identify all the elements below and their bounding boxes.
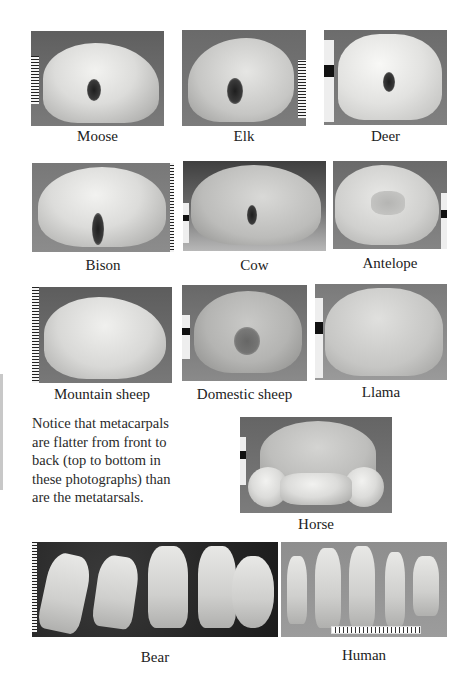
bone-specimen [325, 288, 443, 376]
cow-photo [183, 161, 326, 251]
caption-deer: Deer [324, 128, 447, 145]
scale-ruler [31, 56, 39, 104]
bear-bone-1 [36, 550, 93, 635]
domestic-sheep-photo [182, 285, 307, 381]
fossa [234, 327, 260, 355]
mountain-sheep-photo [32, 287, 172, 383]
moose-photo [31, 31, 164, 126]
scale-ruler [240, 437, 246, 485]
llama-photo [315, 284, 447, 380]
margin-bar [0, 374, 3, 490]
bear-bone-2 [91, 554, 141, 631]
fossa [92, 213, 104, 245]
human-bone-4 [385, 552, 405, 626]
bear-bone-5 [232, 556, 274, 628]
bone-specimen [44, 297, 166, 379]
fossa [227, 78, 243, 104]
bear-bone-4 [198, 546, 236, 628]
caption-mountain-sheep: Mountain sheep [32, 386, 172, 403]
elk-photo [182, 30, 306, 126]
bone-specimen [280, 473, 352, 505]
scale-ruler [183, 203, 189, 243]
scale-ruler [298, 60, 306, 118]
scale-ruler [170, 163, 174, 252]
scale-ruler [182, 315, 190, 359]
human-photo [281, 542, 447, 637]
human-bone-2 [315, 548, 341, 628]
human-bone-1 [287, 556, 307, 624]
scale-ruler [32, 542, 37, 632]
caption-human: Human [281, 647, 447, 664]
caption-antelope: Antelope [333, 255, 447, 272]
bison-photo [32, 163, 174, 252]
caption-elk: Elk [182, 128, 306, 145]
note-text: Notice that metacarpals are flatter from… [32, 414, 182, 507]
bear-photo [32, 542, 278, 637]
horse-photo [240, 417, 392, 513]
fossa [383, 72, 395, 92]
caption-llama: Llama [315, 384, 447, 401]
bone-specimen [191, 165, 321, 245]
antelope-photo [333, 161, 447, 249]
caption-horse: Horse [240, 516, 392, 533]
scale-ruler [32, 287, 39, 383]
scale-ruler [331, 626, 421, 634]
scale-ruler [441, 193, 447, 249]
deer-photo [324, 30, 447, 125]
fossa [87, 79, 101, 101]
fossa [371, 191, 405, 215]
bone-specimen [43, 43, 159, 123]
caption-cow: Cow [183, 257, 326, 274]
caption-moose: Moose [31, 128, 164, 145]
caption-bison: Bison [32, 257, 174, 274]
bone-specimen [188, 38, 294, 122]
scale-ruler [315, 298, 323, 378]
caption-bear: Bear [32, 649, 278, 666]
human-bone-3 [349, 546, 375, 628]
caption-domestic-sheep: Domestic sheep [182, 386, 307, 403]
fossa [247, 205, 257, 225]
human-bone-5 [413, 556, 439, 616]
bear-bone-3 [148, 546, 188, 628]
scale-ruler [324, 40, 334, 122]
